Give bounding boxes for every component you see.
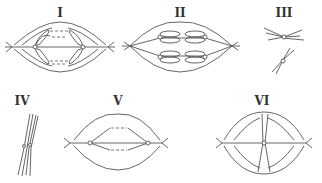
panel-5-drawing	[64, 114, 168, 170]
panel-3-drawing	[264, 28, 304, 74]
panel-1-drawing	[5, 22, 115, 72]
panel-6-drawing	[216, 112, 312, 174]
diagram-canvas	[0, 0, 322, 183]
panel-4-drawing	[18, 114, 38, 176]
panel-2-drawing	[122, 22, 240, 72]
